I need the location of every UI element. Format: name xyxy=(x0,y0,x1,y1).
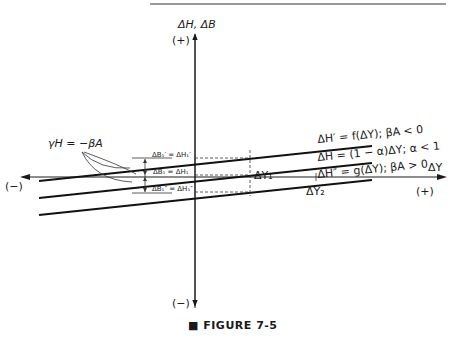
b1-double-prime-label: ΔB₁″ = ΔH₁″ xyxy=(152,186,193,193)
figure-caption: ■ FIGURE 7-5 xyxy=(188,320,278,331)
x-plus-label: (+) xyxy=(416,186,434,197)
y-axis-label: ΔH, ΔB xyxy=(178,19,216,30)
x-minus-label: (−) xyxy=(5,181,23,192)
y-minus-label: (−) xyxy=(172,298,190,309)
x-axis-label: ΔY xyxy=(428,162,442,173)
delta-y1-label: ΔY₁ xyxy=(254,170,273,181)
caption-text: FIGURE 7-5 xyxy=(203,319,277,332)
b1-label: ΔB₁ = ΔH₁ xyxy=(153,169,189,176)
caption-marker: ■ xyxy=(188,319,199,332)
delta-y2-label: ΔY₂ xyxy=(306,186,325,197)
y-plus-label: (+) xyxy=(172,35,190,46)
gamma-annotation: γH = −βA xyxy=(48,138,103,149)
x-axis-right-arrow xyxy=(437,174,447,180)
b1-prime-label: ΔB₁′ = ΔH₁′ xyxy=(152,152,191,159)
